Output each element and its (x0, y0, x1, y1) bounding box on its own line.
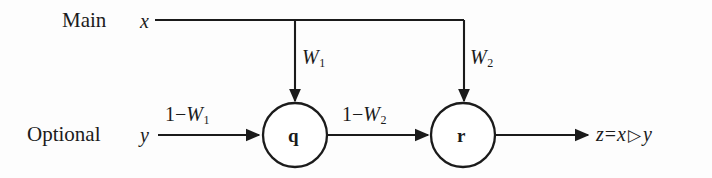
output-left-operand: x (617, 123, 626, 145)
weight-w2-subscript: 2 (487, 56, 493, 70)
complement-w1-minus: − (175, 103, 186, 125)
complement-w2-subscript: 2 (380, 113, 386, 127)
diagram-canvas: Main Optional x y W1 W2 1−W1 1−W2 q r z=… (0, 0, 712, 178)
complement-w2-symbol: W (363, 103, 380, 125)
weight-w2-symbol: W (470, 46, 487, 68)
complement-w1-symbol: W (186, 103, 203, 125)
input-variable-x: x (140, 11, 149, 31)
weight-label-w2: W2 (470, 47, 493, 69)
complement-weight-label-w2: 1−W2 (342, 104, 386, 126)
row-label-optional: Optional (27, 124, 101, 145)
output-result-variable: z (596, 123, 604, 145)
output-right-operand: y (643, 123, 652, 145)
weight-w1-symbol: W (302, 46, 319, 68)
output-equals-sign: = (604, 123, 617, 145)
triangle-right-operator-icon: ▷ (626, 126, 643, 145)
weight-label-w1: W1 (302, 47, 325, 69)
node-r-label: r (457, 126, 465, 145)
node-q-label: q (288, 126, 299, 145)
complement-w1-prefix: 1 (165, 103, 175, 125)
complement-w1-subscript: 1 (203, 113, 209, 127)
weight-w1-subscript: 1 (319, 56, 325, 70)
input-variable-y: y (140, 125, 149, 145)
complement-w2-prefix: 1 (342, 103, 352, 125)
complement-weight-label-w1: 1−W1 (165, 104, 209, 126)
output-expression: z=x▷y (596, 124, 652, 144)
diagram-graphics (0, 0, 712, 178)
complement-w2-minus: − (352, 103, 363, 125)
row-label-main: Main (62, 10, 106, 31)
